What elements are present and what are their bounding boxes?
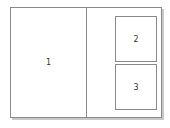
pane-3-label: 3 — [133, 83, 138, 92]
vertical-divider — [86, 7, 87, 118]
pane-2: 2 — [115, 16, 157, 62]
pane-3: 3 — [115, 64, 157, 110]
pane-1: 1 — [11, 8, 86, 117]
pane-1-label: 1 — [46, 58, 51, 67]
pane-2-label: 2 — [133, 35, 138, 44]
